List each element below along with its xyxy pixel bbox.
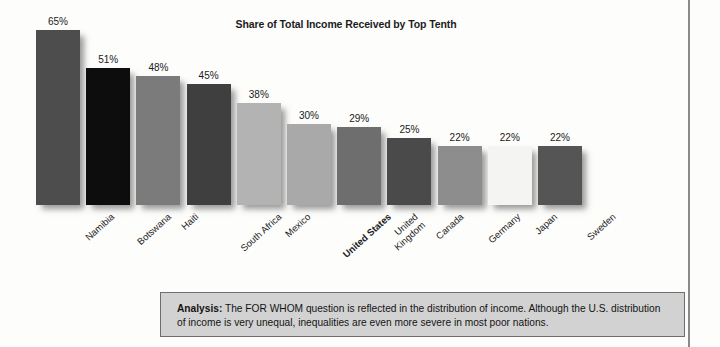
figure-frame-rule: [688, 0, 690, 347]
bar[interactable]: [438, 146, 482, 205]
analysis-label: Analysis:: [177, 303, 222, 314]
bar-group: 51%: [86, 48, 130, 205]
bar[interactable]: [488, 146, 532, 205]
bar-value-label: 45%: [179, 70, 239, 81]
analysis-text: Analysis: The FOR WHOM question is refle…: [177, 302, 670, 330]
x-axis-label: South Africa: [238, 211, 283, 253]
bar-value-label: 29%: [329, 113, 389, 124]
analysis-callout-box: Analysis: The FOR WHOM question is refle…: [160, 292, 685, 337]
x-axis-label: Sweden: [585, 211, 618, 242]
bar[interactable]: [86, 68, 130, 205]
bar-chart-plot-area: 65%51%48%45%38%30%29%25%22%22%22%: [0, 0, 688, 207]
bar-group: 22%: [438, 126, 482, 205]
bar-group: 29%: [337, 107, 381, 205]
bar-value-label: 22%: [530, 132, 590, 143]
x-axis-label: Germany: [486, 211, 522, 245]
bar[interactable]: [337, 127, 381, 205]
x-axis-label: Mexico: [283, 211, 313, 239]
bar[interactable]: [237, 103, 281, 205]
bar[interactable]: [36, 30, 80, 205]
bar-group: 48%: [136, 56, 180, 205]
x-axis-label: Japan: [532, 211, 559, 236]
bar-value-label: 38%: [229, 89, 289, 100]
bar-group: 30%: [287, 104, 331, 205]
x-axis-label: Namibia: [83, 211, 116, 243]
bar-group: 65%: [36, 10, 80, 205]
bar[interactable]: [187, 84, 231, 205]
bar-group: 22%: [538, 126, 582, 205]
x-axis-label: Haiti: [179, 211, 200, 232]
x-axis-label: Botswana: [135, 211, 173, 247]
bar[interactable]: [538, 146, 582, 205]
income-share-figure: Share of Total Income Received by Top Te…: [0, 0, 720, 347]
bar-group: 25%: [387, 118, 431, 205]
bar-group: 45%: [187, 64, 231, 205]
analysis-body: The FOR WHOM question is reflected in th…: [177, 303, 660, 328]
bar[interactable]: [287, 124, 331, 205]
bar-group: 38%: [237, 83, 281, 205]
bar-value-label: 65%: [28, 16, 88, 27]
x-axis-label: Canada: [434, 211, 466, 241]
bar[interactable]: [387, 138, 431, 205]
bar[interactable]: [136, 76, 180, 205]
x-axis-category-labels: NamibiaBotswanaHaitiSouth AfricaMexicoUn…: [0, 207, 688, 292]
bar-group: 22%: [488, 126, 532, 205]
